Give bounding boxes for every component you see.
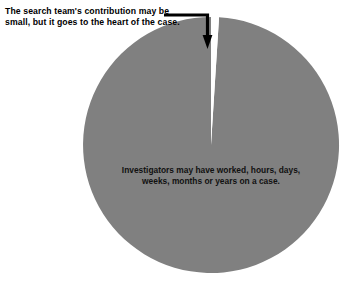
pie-chart-figure [0, 0, 361, 302]
annotation-callout-text: The search team's contribution may be sm… [5, 6, 190, 29]
pie-slice-label-investigator-time: Investigators may have worked, hours, da… [76, 165, 346, 187]
